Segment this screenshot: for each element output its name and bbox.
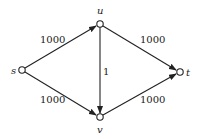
edge-label-s-v: 1000 (40, 94, 65, 105)
node-v (97, 114, 103, 120)
edge-label-u-t: 1000 (140, 34, 165, 45)
flow-network-diagram: 1000 1000 1000 1000 1 s u t v (0, 0, 199, 139)
node-u (97, 21, 103, 27)
edge-label-s-u: 1000 (40, 34, 65, 45)
node-label-t: t (186, 67, 191, 78)
node-label-u: u (97, 5, 103, 16)
node-label-v: v (97, 124, 103, 135)
edge-s-u (25, 26, 96, 68)
edge-u-t (103, 26, 176, 70)
node-s (19, 67, 25, 73)
edge-label-u-v: 1 (103, 66, 109, 77)
node-label-s: s (11, 65, 16, 76)
node-t (177, 69, 183, 75)
edge-label-v-t: 1000 (140, 94, 165, 105)
